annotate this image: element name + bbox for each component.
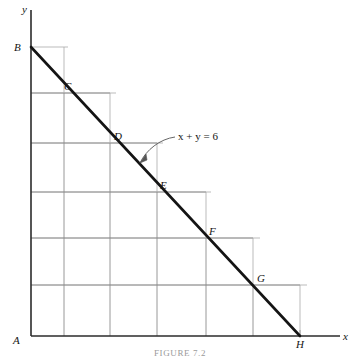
y-axis-label: y	[21, 3, 27, 15]
coordinate-plane-diagram: x + y = 6 x y B C D E F G A H	[0, 0, 360, 359]
figure-container: x + y = 6 x y B C D E F G A H FIGURE 7.2	[0, 0, 360, 359]
guide-lines-vertical	[64, 47, 300, 336]
point-label-f: F	[208, 225, 216, 237]
figure-caption: FIGURE 7.2	[0, 348, 360, 358]
point-label-a: A	[12, 334, 20, 346]
point-label-g: G	[257, 272, 265, 284]
point-label-e: E	[159, 179, 167, 191]
arrowhead-icon	[140, 154, 147, 163]
point-label-d: D	[113, 130, 122, 142]
equation-leader-arrow	[140, 137, 175, 163]
point-label-b: B	[14, 41, 21, 53]
x-axis-label: x	[342, 330, 348, 342]
line-x-plus-y-equals-6	[31, 47, 300, 336]
guide-lines-horizontal	[31, 47, 307, 285]
grid	[31, 93, 300, 336]
point-label-c: C	[64, 80, 72, 92]
equation-annotation: x + y = 6	[178, 130, 218, 142]
